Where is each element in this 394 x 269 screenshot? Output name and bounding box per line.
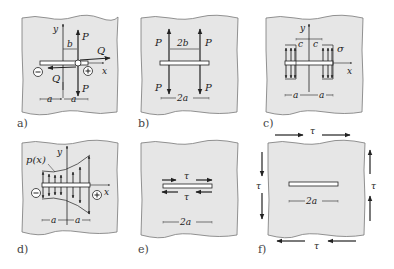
panel-f: τ τ τ τ 2a [256,126,377,251]
panel-label-d: d) [17,243,28,256]
load-point [75,60,81,66]
crack [160,61,209,65]
panel-e: τ τ 2a [141,140,238,238]
label-y: y [299,23,306,33]
panel-label-f: f) [258,243,266,256]
plate-f [268,140,365,238]
panel-label-c: c) [263,117,273,130]
label-a-left: a [293,90,298,100]
label-x: x [104,187,109,197]
label-a-left: a [47,94,52,104]
label-tau-right: τ [371,181,377,191]
crack [42,183,90,187]
label-P-tr: P [204,37,212,48]
label-P-bottom: P [81,83,89,94]
crack [285,61,333,65]
label-P-tl: P [154,37,162,48]
label-a-right: a [319,90,324,100]
label-a-right: a [75,215,80,225]
panel-a: y b P Q x Q P a a [22,15,118,115]
label-c-right: c [313,39,318,49]
label-P-br: P [204,82,212,93]
label-P-top: P [81,31,89,42]
label-a-right: a [71,94,76,104]
crack [163,184,212,188]
label-Q-top: Q [97,45,105,56]
label-x: x [102,66,107,76]
panel-label-e: e) [138,243,149,256]
panel-label-b: b) [138,117,149,130]
label-c-left: c [298,39,303,49]
label-2b: 2b [176,38,189,48]
label-y: y [52,24,59,34]
label-P-bl: P [154,82,162,93]
label-Q-bottom: Q [52,73,60,84]
crack [289,182,338,186]
label-p-of-x: p(x) [26,154,46,165]
label-sigma: σ [337,43,345,54]
label-y: y [56,147,63,157]
label-2a: 2a [176,93,188,103]
panel-label-a: a) [17,117,28,130]
panel-c: y c c σ x a a [266,15,363,115]
label-x: x [347,66,352,76]
label-2a: 2a [305,196,317,206]
label-tau-left: τ [256,181,262,191]
panel-b: P P 2b P P 2a [141,15,238,115]
label-tau-bottom: τ [314,241,320,251]
panel-d: p(x) y x a a [22,140,118,235]
label-b: b [67,39,73,49]
crack-loading-figure: y b P Q x Q P a a P P 2b P P 2a [0,0,394,269]
label-tau-top: τ [310,126,316,136]
label-2a: 2a [179,217,191,227]
label-a-left: a [51,215,56,225]
